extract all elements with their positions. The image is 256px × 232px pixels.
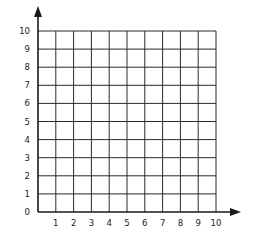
x-tick-label: 8	[178, 218, 183, 228]
x-tick-label: 4	[106, 218, 111, 228]
y-tick-label: 0	[25, 207, 30, 217]
x-tick-label: 7	[160, 218, 165, 228]
coordinate-grid-chart: 12345678910 012345678910	[0, 0, 256, 232]
x-tick-labels: 12345678910	[53, 218, 221, 228]
x-tick-label: 9	[195, 218, 200, 228]
x-tick-label: 1	[53, 218, 58, 228]
x-axis-arrow-icon	[230, 208, 241, 216]
x-tick-label: 6	[142, 218, 147, 228]
y-tick-label: 2	[25, 171, 30, 181]
y-tick-label: 5	[25, 117, 30, 127]
y-axis-arrow-icon	[34, 6, 42, 17]
y-tick-label: 9	[25, 44, 30, 54]
y-tick-label: 7	[25, 80, 30, 90]
y-tick-label: 4	[25, 135, 30, 145]
y-tick-label: 10	[19, 26, 30, 36]
y-tick-labels: 012345678910	[19, 26, 30, 217]
x-tick-label: 2	[71, 218, 76, 228]
x-tick-label: 3	[89, 218, 94, 228]
y-tick-label: 1	[25, 189, 30, 199]
grid-lines	[38, 31, 216, 212]
axes	[34, 6, 241, 216]
x-tick-label: 5	[124, 218, 129, 228]
y-tick-label: 6	[25, 98, 30, 108]
y-tick-label: 8	[25, 62, 30, 72]
x-tick-label: 10	[211, 218, 222, 228]
y-tick-label: 3	[25, 153, 30, 163]
